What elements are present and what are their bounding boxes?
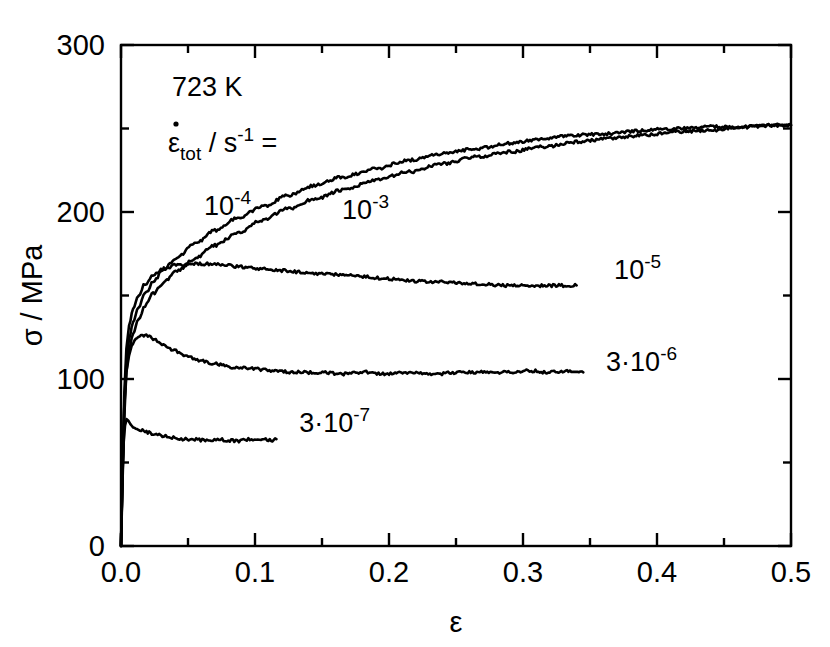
x-axis-tick-label: 0.5: [771, 556, 811, 588]
plot-frame: [121, 45, 791, 546]
y-axis-tick-label: 100: [57, 363, 105, 395]
curve-label-exponent: -3: [372, 191, 389, 212]
curve-label-base: 10: [630, 347, 660, 377]
x-axis-tick-label: 0.4: [637, 556, 677, 588]
curve-label-prefix: 3·: [606, 347, 630, 377]
strain-rate-annotation: εtot / s-1 =: [168, 121, 277, 164]
stress-strain-figure: 0.00.10.20.30.40.50100200300εσ / MPa10-3…: [0, 0, 830, 647]
curve-1e-4: [121, 124, 791, 546]
curve-1e-3: [121, 124, 791, 546]
epsilon-subscript: tot: [180, 143, 202, 164]
chart-canvas: 0.00.10.20.30.40.50100200300εσ / MPa10-3…: [0, 0, 830, 647]
curve-label-base: 10: [323, 408, 353, 438]
axes: [121, 45, 791, 546]
curve-label-exponent: -5: [644, 251, 661, 272]
rate-units-exponent: -1: [237, 124, 254, 145]
curve-label-prefix: 3·: [299, 408, 323, 438]
curve-label-3e-7: 3·10-7: [299, 404, 370, 438]
x-axis-tick-label: 0.2: [369, 556, 409, 588]
rate-equals: =: [254, 128, 277, 158]
curve-label-exponent: -7: [353, 404, 370, 425]
x-axis-title: ε: [450, 606, 463, 638]
curve-label-text-3e-6: 3·10-6: [606, 343, 677, 377]
curve-3e-7: [121, 419, 276, 546]
curve-label-text-1e-3: 10-3: [342, 191, 389, 225]
curve-label-base: 10: [342, 195, 372, 225]
epsilon-dot-icon: [173, 121, 178, 126]
strain-rate-annotation-text: εtot / s-1 =: [168, 124, 277, 164]
temperature-annotation: 723 K: [172, 72, 243, 102]
curve-1e-5: [121, 263, 577, 546]
curve-label-exponent: -4: [234, 187, 251, 208]
curve-label-1e-5: 10-5: [614, 251, 661, 285]
x-axis-tick-label: 0.3: [503, 556, 543, 588]
rate-units: / s: [201, 128, 237, 158]
curve-label-1e-3: 10-3: [342, 191, 389, 225]
curve-label-exponent: -6: [660, 343, 677, 364]
curve-label-base: 10: [204, 191, 234, 221]
y-axis-tick-label: 200: [57, 196, 105, 228]
epsilon-symbol: ε: [168, 128, 180, 158]
y-axis-tick-label: 0: [89, 530, 105, 562]
y-axis-title: σ / MPa: [16, 244, 48, 347]
y-axis-tick-label: 300: [57, 29, 105, 61]
curves: [121, 124, 791, 546]
curve-label-text-3e-7: 3·10-7: [299, 404, 370, 438]
x-axis-tick-label: 0.1: [235, 556, 275, 588]
curve-label-3e-6: 3·10-6: [606, 343, 677, 377]
curve-label-text-1e-5: 10-5: [614, 251, 661, 285]
x-axis-tick-label: 0.0: [101, 556, 141, 588]
curve-label-base: 10: [614, 255, 644, 285]
